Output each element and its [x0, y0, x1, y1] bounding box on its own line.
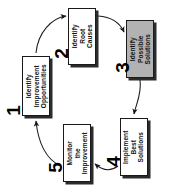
step-4-line1: Implement: [123, 130, 130, 163]
step-1-label: Identify Improvement Opportunities: [25, 64, 48, 108]
step-number-5: 5: [46, 162, 65, 173]
step-2-label: Identify Root Causes: [71, 25, 94, 49]
step-number-3: 3: [113, 62, 132, 73]
step-3-line3: Solutions: [144, 34, 151, 65]
step-box-1[interactable]: Identify Improvement Opportunities: [22, 56, 50, 116]
step-3-line2: Possible: [136, 35, 143, 63]
step-4-line3: Solutions: [138, 132, 145, 163]
step-box-5[interactable]: Monitor the Improvement: [63, 124, 91, 182]
step-5-label: Monitor the Improvement: [66, 132, 89, 174]
step-box-2[interactable]: Identify Root Causes: [68, 8, 96, 65]
step-4-label: Implement Best Solutions: [123, 130, 146, 163]
step-5-line1: Monitor: [66, 141, 73, 166]
step-3-line1: Identify: [129, 37, 136, 61]
step-1-line1: Identify: [25, 74, 32, 98]
step-4-line2: Best: [130, 140, 137, 155]
connector-2-to-3: [98, 16, 124, 32]
connector-3-to-4: [134, 80, 140, 114]
diagram-canvas: Identify Improvement Opportunities 1 Ide…: [0, 0, 173, 194]
step-number-2: 2: [52, 48, 71, 59]
step-5-line2: the: [73, 148, 80, 158]
connector-5-to-1: [36, 121, 61, 166]
step-2-line3: Causes: [86, 25, 93, 49]
step-5-line3: Improvement: [81, 132, 88, 174]
step-number-4: 4: [104, 156, 123, 167]
step-1-line3: Opportunities: [40, 64, 47, 108]
step-number-1: 1: [4, 105, 23, 116]
step-1-line2: Improvement: [32, 65, 39, 107]
step-3-label: Identify Possible Solutions: [129, 34, 152, 65]
step-2-line1: Identify: [71, 25, 78, 49]
step-2-line2: Root: [78, 29, 85, 44]
step-box-4[interactable]: Implement Best Solutions: [120, 118, 148, 176]
